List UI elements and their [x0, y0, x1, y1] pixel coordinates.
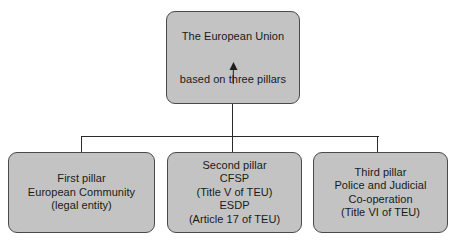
second-pillar-line-5: (Article 17 of TEU): [189, 213, 280, 227]
node-second-pillar: Second pillar CFSP (Title V of TEU) ESDP…: [167, 152, 302, 233]
eu-three-pillars-diagram: The European Union based on three pillar…: [0, 0, 462, 251]
first-pillar-line-3: (legal entity): [51, 199, 112, 213]
second-pillar-line-2: CFSP: [220, 172, 250, 186]
second-pillar-line-4: ESDP: [219, 199, 249, 213]
connector-drop-second-pillar: [232, 136, 233, 153]
connector-drop-first-pillar: [81, 136, 82, 153]
first-pillar-line-2: European Community: [28, 186, 135, 200]
node-european-union-title: The European Union: [182, 30, 284, 44]
second-pillar-line-1: Second pillar: [202, 159, 266, 173]
first-pillar-line-1: First pillar: [57, 172, 105, 186]
second-pillar-line-3: (Title V of TEU): [197, 186, 273, 200]
connector-drop-third-pillar: [377, 136, 378, 153]
third-pillar-line-4: (Title VI of TEU): [341, 206, 420, 220]
node-european-union-subtitle: based on three pillars: [167, 73, 299, 87]
third-pillar-line-1: Third pillar: [355, 166, 407, 180]
node-first-pillar: First pillar European Community (legal e…: [8, 152, 155, 233]
third-pillar-line-2: Police and Judicial: [334, 179, 426, 193]
node-european-union: The European Union based on three pillar…: [166, 11, 300, 104]
third-pillar-line-3: Co-operation: [348, 193, 412, 207]
node-third-pillar: Third pillar Police and Judicial Co-oper…: [313, 152, 448, 233]
connector-root-drop: [232, 104, 233, 137]
connector-horizontal-bus: [81, 136, 379, 137]
